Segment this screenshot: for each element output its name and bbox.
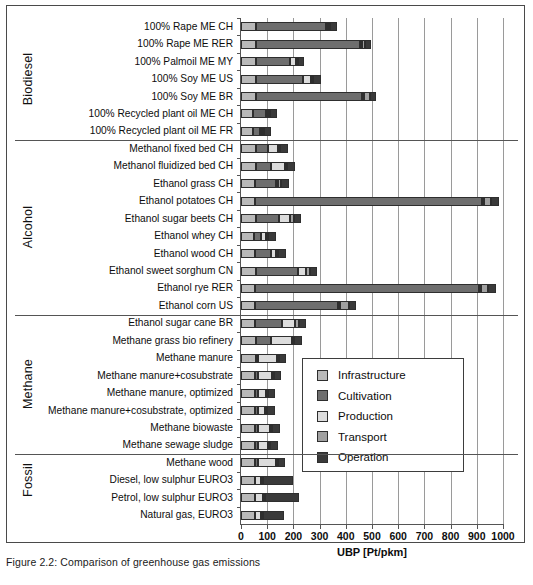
x-tick-label: 500 — [363, 530, 381, 542]
category-label-11: Ethanol sugar beets CH — [41, 214, 233, 224]
category-label-10: Ethanol potatoes CH — [41, 196, 233, 206]
bar-segment-production — [258, 441, 269, 450]
bar-21 — [241, 389, 275, 398]
category-label-3: 100% Soy ME US — [41, 74, 233, 84]
y-tick — [237, 297, 241, 298]
bar-segment-infrastructure — [241, 319, 255, 328]
y-tick — [237, 175, 241, 176]
group-axis: BiodieselAlcoholMethaneFossil — [15, 6, 41, 542]
legend-label: Infrastructure — [338, 369, 406, 381]
y-tick — [237, 262, 241, 263]
figure-frame: BiodieselAlcoholMethaneFossil 100% Rape … — [6, 5, 525, 543]
bar-segment-production — [255, 493, 263, 502]
bar-segment-production — [268, 144, 278, 153]
bar-segment-production — [258, 458, 276, 467]
bar-segment-production — [258, 371, 272, 380]
bar-28 — [241, 511, 284, 520]
bar-segment-operation — [349, 301, 356, 310]
bar-segment-infrastructure — [241, 336, 256, 345]
group-label-text: Fossil — [21, 463, 35, 497]
bar-17 — [241, 319, 306, 328]
category-label-6: 100% Recycled plant oil ME FR — [41, 126, 233, 136]
bar-segment-cultivation — [256, 336, 271, 345]
category-label-21: Methane manure, optimized — [41, 388, 233, 398]
bar-segment-infrastructure — [241, 162, 256, 171]
bar-segment-operation — [268, 389, 276, 398]
bar-segment-operation — [278, 458, 286, 467]
bar-segment-production — [303, 75, 312, 84]
bar-segment-operation — [281, 179, 289, 188]
x-tick — [241, 524, 242, 529]
group-separator — [15, 315, 518, 316]
group-label-alcohol: Alcohol — [15, 140, 41, 314]
y-tick — [237, 227, 241, 228]
x-tick — [346, 524, 347, 529]
bar-2 — [241, 57, 304, 66]
legend-swatch-icon — [317, 431, 328, 442]
bar-segment-infrastructure — [241, 406, 255, 415]
bar-14 — [241, 267, 317, 276]
bar-segment-production — [282, 319, 295, 328]
group-label-text: Methane — [21, 359, 35, 409]
bar-segment-infrastructure — [241, 197, 255, 206]
bar-segment-cultivation — [255, 249, 270, 258]
bar-16 — [241, 301, 356, 310]
x-tick — [503, 524, 504, 529]
group-separator — [15, 140, 518, 141]
bar-segment-infrastructure — [241, 354, 256, 363]
category-label-13: Ethanol wood CH — [41, 249, 233, 259]
bar-segment-transport — [484, 197, 491, 206]
bar-segment-cultivation — [256, 40, 360, 49]
bar-segment-operation — [280, 144, 288, 153]
gridline — [477, 18, 478, 524]
figure-caption: Figure 2.2: Comparison of greenhouse gas… — [6, 556, 525, 568]
x-tick-label: 800 — [442, 530, 460, 542]
legend-label: Operation — [338, 451, 389, 463]
bar-segment-infrastructure — [241, 389, 255, 398]
y-tick — [237, 437, 241, 438]
x-tick — [477, 524, 478, 529]
bar-segment-operation — [313, 75, 320, 84]
bar-segment-operation — [265, 493, 299, 502]
x-tick — [424, 524, 425, 529]
bar-segment-operation — [298, 57, 304, 66]
legend-swatch-icon — [317, 370, 328, 381]
x-tick — [293, 524, 294, 529]
legend-item-infrastructure: Infrastructure — [303, 365, 463, 386]
bar-segment-operation — [264, 127, 271, 136]
category-label-16: Ethanol corn US — [41, 301, 233, 311]
group-label-methane: Methane — [15, 315, 41, 455]
bar-segment-infrastructure — [241, 232, 254, 241]
bar-segment-operation — [294, 336, 301, 345]
y-tick — [237, 53, 241, 54]
x-tick-label: 1000 — [491, 530, 514, 542]
bar-6 — [241, 127, 271, 136]
category-label-4: 100% Soy ME BR — [41, 92, 233, 102]
bar-segment-operation — [365, 40, 372, 49]
category-label-18: Methane grass bio refinery — [41, 336, 233, 346]
bar-segment-infrastructure — [241, 179, 255, 188]
bar-1 — [241, 40, 371, 49]
bar-segment-operation — [278, 249, 286, 258]
bar-20 — [241, 371, 281, 380]
y-tick — [237, 419, 241, 420]
bar-segment-production — [298, 267, 307, 276]
y-tick — [237, 472, 241, 473]
category-label-9: Ethanol grass CH — [41, 179, 233, 189]
bar-13 — [241, 249, 286, 258]
legend-label: Cultivation — [338, 390, 392, 402]
bar-segment-cultivation — [254, 232, 261, 241]
bar-segment-infrastructure — [241, 458, 255, 467]
bar-segment-infrastructure — [241, 127, 253, 136]
bar-segment-infrastructure — [241, 249, 255, 258]
bar-segment-operation — [272, 424, 280, 433]
category-label-19: Methane manure — [41, 353, 233, 363]
y-tick — [237, 402, 241, 403]
bar-27 — [241, 493, 299, 502]
bar-segment-cultivation — [255, 179, 276, 188]
y-tick — [237, 18, 241, 19]
legend-item-production: Production — [303, 406, 463, 427]
x-tick-label: 0 — [238, 530, 244, 542]
bar-segment-operation — [287, 162, 295, 171]
bar-segment-cultivation — [256, 75, 303, 84]
